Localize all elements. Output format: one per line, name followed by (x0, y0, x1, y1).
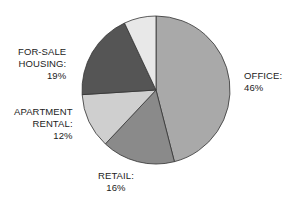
label-retail: RETAIL: 16% (98, 170, 134, 194)
label-percent: 12% (14, 130, 73, 142)
label-line: HOUSING: (18, 58, 66, 70)
label-line: APARTMENT (14, 106, 73, 118)
label-line: RENTAL: (14, 118, 73, 130)
label-percent: 16% (98, 182, 134, 194)
label-line: OFFICE: (244, 70, 282, 82)
label-line: RETAIL: (98, 170, 134, 182)
label-line: FOR-SALE (18, 46, 66, 58)
label-office: OFFICE: 46% (244, 70, 282, 94)
pie-chart (0, 0, 297, 202)
label-apartment-rental: APARTMENT RENTAL: 12% (14, 106, 73, 142)
label-for-sale-housing: FOR-SALE HOUSING: 19% (18, 46, 66, 82)
label-percent: 19% (18, 70, 66, 82)
label-percent: 46% (244, 82, 282, 94)
